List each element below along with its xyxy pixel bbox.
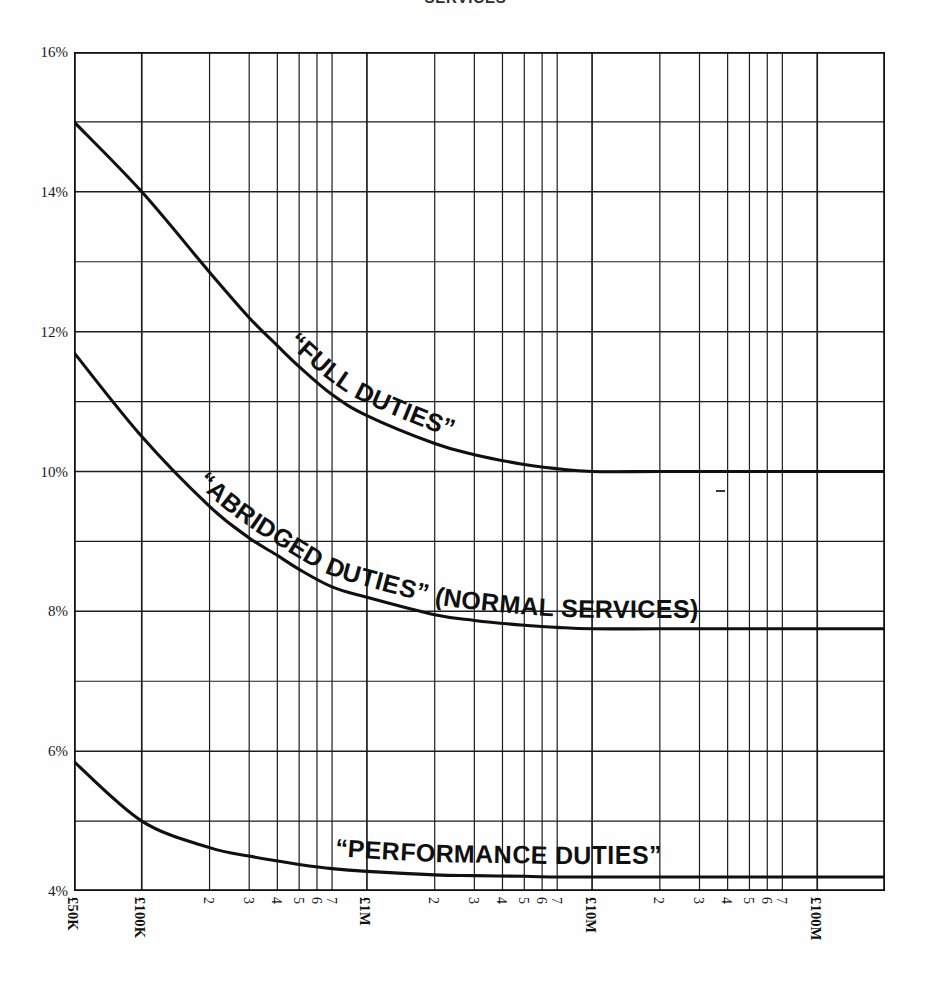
y-tick-label: 16%: [41, 45, 69, 60]
x-tick-label: 4: [719, 897, 733, 904]
x-tick-label: 3: [466, 897, 480, 904]
x-tick-label: 6: [309, 897, 323, 904]
series-line-0: [74, 122, 885, 472]
plot-area: “FULL DUTIES”“ABRIDGED DUTIES” (NORMAL S…: [74, 52, 885, 891]
curve-label-2: “PERFORMANCE DUTIES”: [334, 833, 662, 869]
x-tick-label: 2: [426, 897, 440, 904]
x-tick-label: 5: [291, 897, 305, 904]
y-tick-label: 6%: [48, 744, 68, 759]
x-tick-label: 5: [516, 897, 530, 904]
x-tick-label: 4: [494, 897, 508, 904]
x-tick-label: 7: [774, 897, 788, 904]
x-tick-label: 3: [691, 897, 705, 904]
x-tick-label: £100K: [133, 897, 148, 938]
x-tick-label: 4: [269, 897, 283, 904]
x-tick-label: £100M: [808, 897, 823, 941]
y-tick-label: 12%: [41, 324, 69, 339]
curve-label-1: “ABRIDGED DUTIES” (NORMAL SERVICES): [193, 466, 699, 623]
series-annotation-labels: “FULL DUTIES”“ABRIDGED DUTIES” (NORMAL S…: [193, 326, 699, 869]
page-title: SERVICES: [0, 0, 931, 6]
x-tick-label: 6: [759, 897, 773, 904]
y-tick-label: 10%: [41, 464, 69, 479]
x-tick-label: 6: [534, 897, 548, 904]
scan-artifact-dash: [716, 490, 725, 492]
series-lines: [74, 122, 885, 877]
x-tick-label: 7: [549, 897, 563, 904]
x-tick-label: 2: [651, 897, 665, 904]
chart-page: SERVICES 4%6%8%10%12%14%16% “FULL DUTIES…: [0, 0, 931, 997]
x-tick-label: £1M: [358, 897, 373, 926]
x-tick-label: £10M: [583, 897, 598, 933]
x-tick-label: 2: [201, 897, 215, 904]
chart-canvas: “FULL DUTIES”“ABRIDGED DUTIES” (NORMAL S…: [74, 52, 885, 891]
y-axis-tick-labels: 4%6%8%10%12%14%16%: [14, 52, 68, 891]
curve-label-0: “FULL DUTIES”: [283, 326, 459, 442]
x-tick-label: 3: [241, 897, 255, 904]
x-tick-label: £50K: [65, 897, 80, 931]
y-tick-label: 14%: [41, 184, 69, 199]
y-tick-label: 8%: [48, 604, 68, 619]
x-tick-label: 7: [324, 897, 338, 904]
x-axis-tick-labels: £50K£100K234567£1M234567£10M234567£100M: [74, 893, 885, 997]
x-tick-label: 5: [741, 897, 755, 904]
